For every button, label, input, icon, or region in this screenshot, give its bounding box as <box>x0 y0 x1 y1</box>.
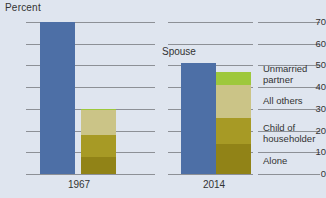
legend-item-all-others: All others <box>263 96 325 107</box>
y-tick-label-60: 60 <box>304 38 326 49</box>
bar-segment-alone <box>81 157 116 174</box>
chart-canvas: Percent 010203040506070 19672014 Spouse … <box>0 0 326 198</box>
gridline-0 <box>26 174 155 175</box>
bar-2014-spouse <box>181 63 216 174</box>
y-axis-title: Percent <box>5 2 41 13</box>
bar-segment-all-others <box>216 85 251 118</box>
gridline-60 <box>168 44 253 45</box>
legend-label-line1: Unmarried <box>263 64 325 75</box>
bar-segment-alone <box>216 144 251 174</box>
legend-label-line1: Alone <box>263 156 325 167</box>
bar-segment-child-of-householder <box>81 135 116 157</box>
legend-label-line2: partner <box>263 75 325 86</box>
group-label-2014: 2014 <box>184 179 244 190</box>
bar-segment-unmarried-partner <box>81 109 116 110</box>
legend-label-line1: Child of <box>263 123 325 134</box>
gridline-70 <box>168 22 253 23</box>
y-tick-label-70: 70 <box>304 16 326 27</box>
y-tick-label-0: 0 <box>304 168 326 179</box>
legend-label-line2: householder <box>263 134 325 145</box>
bar-1967-spouse <box>40 22 75 174</box>
legend-item-unmarried: Unmarriedpartner <box>263 64 325 85</box>
bar-segment-unmarried-partner <box>216 72 251 85</box>
bar-segment-child-of-householder <box>216 118 251 144</box>
group-label-1967: 1967 <box>49 179 109 190</box>
spouse-annotation-label: Spouse <box>162 46 196 57</box>
legend-item-alone: Alone <box>263 156 325 167</box>
legend-item-child-of: Child ofhouseholder <box>263 123 325 144</box>
bar-segment-all-others <box>81 110 116 135</box>
bar-2014-other-living-arrangements <box>216 72 251 174</box>
gridline-0 <box>168 174 253 175</box>
bar-1967-other-living-arrangements <box>81 109 116 174</box>
legend-label-line1: All others <box>263 96 325 107</box>
